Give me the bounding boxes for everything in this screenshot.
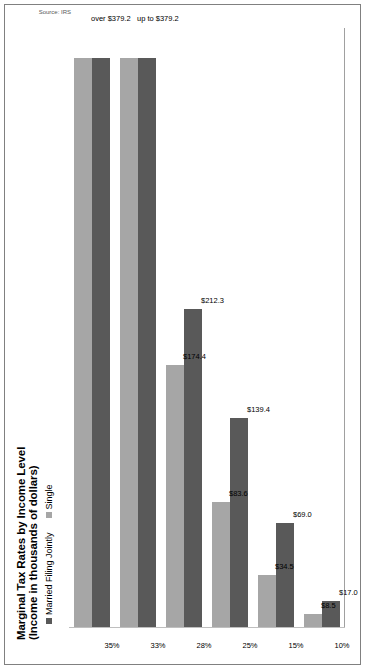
legend-label-single: Single xyxy=(44,484,54,509)
bracket-label-33pct: up to $379.2 xyxy=(137,14,179,23)
source-note: Source: IRS xyxy=(39,9,71,15)
bar-33pct-married xyxy=(138,58,156,627)
value-label-25pct-married: $139.4 xyxy=(247,405,270,414)
legend-swatch-single xyxy=(46,512,52,518)
category-label-25pct: 25% xyxy=(240,641,260,650)
value-label-28pct-married: $212.3 xyxy=(201,296,224,305)
chart-title: Marginal Tax Rates by Income Level xyxy=(15,447,27,640)
bar-35pct-married xyxy=(92,58,110,627)
category-label-15pct: 15% xyxy=(286,641,306,650)
rotated-chart-container: Marginal Tax Rates by Income Level (Inco… xyxy=(7,5,360,654)
legend-item-married: Married Filing Jointly xyxy=(44,532,54,624)
value-label-10pct-single: $8.5 xyxy=(321,601,336,610)
bar-25pct-single xyxy=(212,502,230,627)
chart-subtitle: (Income in thousands of dollars) xyxy=(27,447,39,640)
category-label-28pct: 28% xyxy=(194,641,214,650)
category-label-10pct: 10% xyxy=(332,641,352,650)
value-label-15pct-married: $69.0 xyxy=(293,511,312,520)
legend-label-married: Married Filing Jointly xyxy=(44,532,54,615)
bar-15pct-married xyxy=(276,524,294,628)
value-axis-baseline xyxy=(344,28,345,628)
value-label-15pct-single: $34.5 xyxy=(275,562,294,571)
bracket-label-35pct: over $379.2 xyxy=(91,14,131,23)
bar-35pct-single xyxy=(74,58,92,627)
chart-canvas: Marginal Tax Rates by Income Level (Inco… xyxy=(7,5,360,654)
value-label-25pct-single: $83.6 xyxy=(229,489,248,498)
category-label-33pct: 33% xyxy=(148,641,168,650)
chart-legend: Married Filing Jointly Single xyxy=(44,484,54,624)
bar-15pct-single xyxy=(258,575,276,627)
legend-item-single: Single xyxy=(44,484,54,518)
bar-10pct-single xyxy=(304,614,322,627)
chart-frame: Marginal Tax Rates by Income Level (Inco… xyxy=(4,4,361,665)
bar-25pct-married xyxy=(230,418,248,627)
value-label-10pct-married: $17.0 xyxy=(339,589,358,598)
legend-swatch-married xyxy=(46,618,52,624)
category-axis-line xyxy=(69,627,345,628)
plot-area: $17.0$8.510%$69.0$34.515%$139.4$83.625%$… xyxy=(69,28,345,628)
bar-28pct-single xyxy=(166,365,184,627)
value-label-28pct-single: $174.4 xyxy=(183,352,206,361)
title-block: Marginal Tax Rates by Income Level (Inco… xyxy=(15,447,39,640)
bar-33pct-single xyxy=(120,58,138,627)
category-label-35pct: 35% xyxy=(102,641,122,650)
